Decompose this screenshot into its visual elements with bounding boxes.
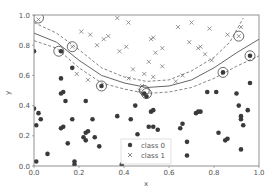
class-1-point [127,21,131,25]
class-0-point [38,117,43,122]
class-0-point [236,103,241,108]
class-0-point [155,127,160,132]
x-axis-label: x [144,180,148,188]
class-0-point [36,111,41,116]
class-1-point [147,60,151,64]
class-0-point [70,66,75,71]
class-0-point [151,124,156,129]
class-0-point [90,117,95,122]
class-1-point [79,30,83,34]
y-axis-ticks: 0.00.20.40.60.81.0 [19,12,34,171]
legend-label-class-1: class 1 [141,152,165,160]
class-0-point [92,135,97,140]
class-0-point [225,137,230,142]
x-axis-ticks: 0.00.20.40.60.81.0 [28,166,264,177]
class-0-point [248,53,253,58]
class-0-point [135,132,140,137]
class-1-point [160,46,164,50]
svm-scatter-chart: 0.00.20.40.60.81.0 0.00.20.40.60.81.0 x … [0,0,275,194]
class-0-point [86,129,91,134]
class-1-point [237,34,241,38]
class-0-point [146,124,151,129]
class-1-point [106,34,110,38]
class-1-point [115,16,119,20]
class-0-point [59,126,64,131]
class-0-point [59,49,64,54]
x-tick-label: 0.8 [208,169,219,177]
class-0-point [180,121,185,126]
class-1-point [181,73,185,77]
class-0-point [45,152,50,157]
class-0-point [59,76,64,81]
y-tick-label: 1.0 [19,12,30,20]
class-1-point [149,37,153,41]
y-tick-label: 0.6 [19,72,31,80]
x-tick-label: 1.0 [253,169,264,177]
class-1-point [37,18,41,22]
class-1-point [75,72,79,76]
class-1-point [196,46,200,50]
class-0-point [248,81,253,86]
class-0-point [59,91,64,96]
x-tick-label: 0.2 [73,169,84,177]
x-tick-label: 0.6 [163,169,175,177]
class-1-point [210,58,214,62]
class-0-point [239,147,244,152]
class-1-point [176,25,180,29]
class-1-point [174,79,178,83]
class-0-point [128,117,133,122]
class-0-point [198,109,203,114]
class-0-point [205,90,210,95]
class-1-point [190,21,194,25]
class-1-point [199,45,203,49]
class-1-point [88,33,92,37]
class-0-point [83,138,88,143]
class-1-point [151,36,155,40]
class-1-point [102,37,106,41]
x-tick-label: 0.4 [118,169,130,177]
class-1-point [124,45,128,49]
class-1-point [142,72,146,76]
class-0-point [70,117,75,122]
class-1-point [70,45,74,49]
y-tick-label: 0.0 [19,163,30,171]
class-1-point [118,49,122,53]
y-tick-label: 0.2 [19,132,30,140]
class-0-point [133,103,138,108]
legend-label-class-0: class 0 [141,142,165,150]
class-1-point [160,64,164,68]
class-0-point [221,70,226,75]
y-axis-label: y [4,91,12,95]
class-0-point [97,144,102,149]
class-1-point [187,40,191,44]
class-1-point [208,27,212,31]
support-vector-ring [34,13,44,23]
decision-boundary-line [34,33,259,87]
class-0-point [99,84,104,89]
class-1-point [95,43,99,47]
class-0-point [185,153,190,158]
class-1-point [151,75,155,79]
class-1-point [154,51,158,55]
class-0-point [65,141,70,146]
class-0-point [234,91,239,96]
x-tick-label: 0.0 [28,169,39,177]
class-0-point [83,99,88,104]
class-1-point [203,52,207,56]
class-0-point [216,130,221,135]
y-tick-label: 0.4 [19,102,31,110]
class-1-point [239,25,243,29]
class-0-point [214,90,219,95]
class-0-point [151,108,156,113]
class-0-point [241,123,246,128]
legend-marker-class-0 [128,143,132,147]
class-0-point [34,123,39,128]
class-0-point [34,159,39,164]
class-0-point [185,140,190,145]
class-0-point [115,114,120,119]
class-1-point [86,78,90,82]
class-0-point [239,117,244,122]
y-tick-label: 0.8 [19,42,30,50]
class-1-point [131,67,135,71]
class-1-point [226,33,230,37]
